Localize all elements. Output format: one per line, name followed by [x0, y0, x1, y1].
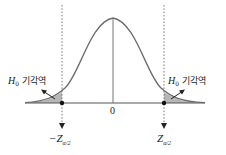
h-subscript: 0: [175, 80, 179, 87]
normal-curve: [25, 18, 205, 103]
right-label-arrowhead-icon: [179, 90, 185, 95]
center-zero-label: 0: [110, 106, 115, 116]
rejection-text: 기각역: [22, 76, 46, 86]
h-subscript: 0: [15, 80, 19, 87]
z-subscript: α/2: [163, 140, 171, 146]
left-critical-label: −Zα/2: [49, 133, 70, 146]
right-down-arrow-icon: [161, 123, 167, 129]
right-critical-label: Zα/2: [157, 133, 171, 146]
z-subscript: α/2: [63, 140, 71, 146]
right-rejection-label: H0기각역: [168, 76, 206, 87]
rejection-text: 기각역: [182, 76, 206, 86]
right-critical-point: [162, 101, 166, 105]
left-critical-point: [60, 101, 64, 105]
left-down-arrow-icon: [59, 123, 65, 129]
left-label-arrowhead-icon: [41, 90, 47, 95]
left-rejection-label: H0기각역: [8, 76, 46, 87]
